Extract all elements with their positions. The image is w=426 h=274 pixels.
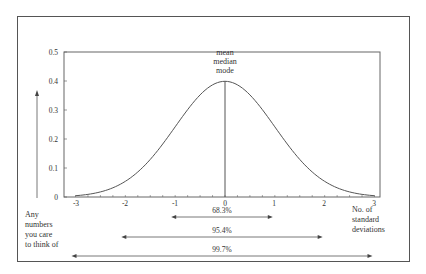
x-tick-label: -2 [117,199,133,208]
x-axis-note-line: standard [352,215,379,225]
x-axis-note-line: deviations [352,225,385,235]
arrow-right-icon [318,235,323,239]
y-tick-label: 0.3 [28,106,58,115]
y-axis-note-line: you care [25,230,52,240]
range-label-95: 95.4% [202,226,242,235]
range-label-68: 68.3% [202,206,242,215]
y-tick-label: 0 [28,193,58,202]
mode-label: mode [205,66,245,76]
y-tick-label: 0.5 [28,48,58,57]
arrow-left-icon [171,215,176,219]
y-axis-note-line: Any [25,210,39,220]
arrow-right-icon [268,215,273,219]
y-axis-note-line: numbers [25,220,53,230]
x-axis-note-line: No. of [352,205,372,215]
arrow-up-icon [35,90,39,96]
arrow-left-icon [121,235,126,239]
y-tick-label: 0.4 [28,77,58,86]
y-tick-label: 0.1 [28,164,58,173]
x-tick-label: 2 [316,199,332,208]
x-tick-label: -1 [167,199,183,208]
y-axis-note-line: to think of [25,240,58,250]
x-tick-label: 1 [266,199,282,208]
range-label-99: 99.7% [202,245,242,254]
arrow-right-icon [368,254,373,258]
arrow-left-icon [72,254,77,258]
y-tick-label: 0.2 [28,135,58,144]
x-tick-label: -3 [68,199,84,208]
